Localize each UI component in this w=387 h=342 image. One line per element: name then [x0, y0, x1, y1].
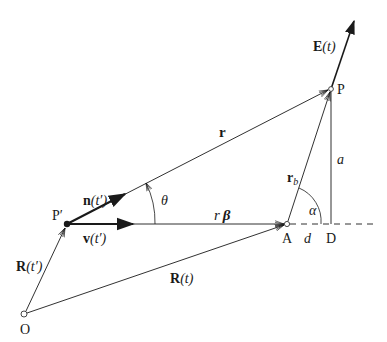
label-r: r	[219, 124, 226, 140]
diagram-canvas: O P′ A P D R(t′) R(t) n(t′) v(t′) r rβ r…	[0, 0, 387, 342]
label-v-t-prime: v(t′)	[83, 231, 107, 247]
label-alpha: α	[309, 203, 317, 218]
label-theta: θ	[161, 193, 168, 208]
label-P-prime: P′	[52, 208, 63, 223]
point-A	[284, 221, 289, 226]
vector-r-b	[288, 92, 330, 221]
label-R-t: R(t)	[170, 271, 194, 287]
vector-E-t	[331, 21, 354, 89]
diagram-svg: O P′ A P D R(t′) R(t) n(t′) v(t′) r rβ r…	[0, 0, 387, 342]
point-O	[21, 311, 27, 317]
angle-theta-arc	[146, 183, 155, 224]
label-D: D	[326, 231, 336, 246]
label-a: a	[337, 152, 344, 167]
label-E-t: E(t)	[313, 39, 336, 55]
label-r-b: rb	[287, 170, 298, 187]
label-O: O	[20, 322, 30, 337]
point-P	[329, 87, 334, 92]
label-R-t-prime: R(t′)	[16, 259, 43, 275]
vector-R-t	[27, 225, 284, 313]
label-P: P	[337, 82, 345, 97]
label-A: A	[282, 231, 293, 246]
point-P-prime	[64, 221, 70, 227]
label-r-beta: rβ	[214, 207, 231, 223]
label-d: d	[304, 231, 312, 246]
label-n-t-prime: n(t′)	[83, 193, 107, 209]
